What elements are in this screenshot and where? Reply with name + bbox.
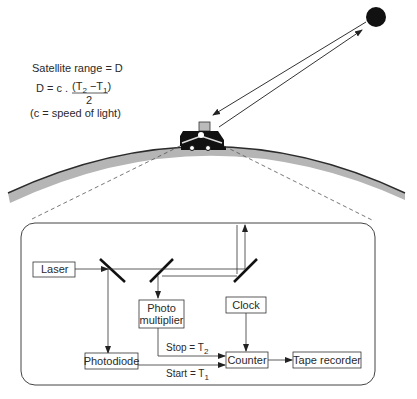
formula-title: Satellite range = D	[32, 62, 123, 74]
counter-label: Counter	[227, 354, 266, 366]
formula-denominator: 2	[86, 94, 92, 106]
photomultiplier-label-1: Photo	[147, 302, 176, 314]
clock-label: Clock	[232, 299, 260, 311]
formula-note: (c = speed of light)	[30, 107, 121, 119]
photomultiplier-label-2: multiplier	[139, 314, 183, 326]
laser-ranging-diagram: Satellite range = D D = c . (T2 −T1) 2 (…	[0, 0, 417, 399]
return-beam	[213, 22, 366, 115]
outgoing-beam	[219, 30, 362, 127]
formula-lhs: D = c .	[36, 82, 68, 94]
vehicle-icon	[180, 122, 226, 151]
range-formula: Satellite range = D D = c . (T2 −T1) 2 (…	[30, 62, 123, 119]
photodiode-label: Photodiode	[84, 355, 140, 367]
satellite-icon	[366, 7, 386, 27]
tape-recorder-label: Tape recorder	[293, 354, 361, 366]
earth-surface	[8, 147, 405, 204]
laser-label: Laser	[41, 263, 69, 275]
